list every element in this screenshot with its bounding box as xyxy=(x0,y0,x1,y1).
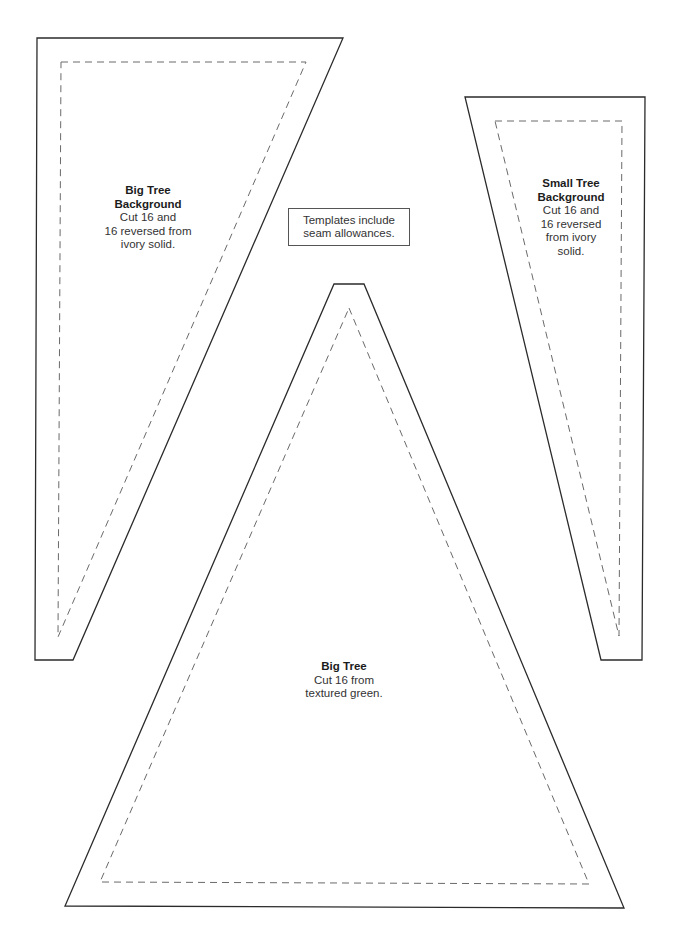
note-line-1: Templates include xyxy=(303,214,395,228)
small-tree-background-title-2: Background xyxy=(526,191,616,205)
small-tree-background-label: Small Tree Background Cut 16 and 16 reve… xyxy=(526,177,616,258)
big-tree-instruction-2: textured green. xyxy=(284,687,404,701)
big-tree-seam-line xyxy=(100,308,589,884)
note-line-2: seam allowances. xyxy=(303,227,395,241)
big-tree-instruction-1: Cut 16 from xyxy=(284,674,404,688)
big-tree-background-cut-line xyxy=(35,38,343,660)
big-tree-background-instruction-1: Cut 16 and xyxy=(88,211,208,225)
small-tree-background-instruction-3: from ivory xyxy=(526,231,616,245)
big-tree-label: Big Tree Cut 16 from textured green. xyxy=(284,660,404,701)
small-tree-background-title-1: Small Tree xyxy=(526,177,616,191)
small-tree-background-instruction-4: solid. xyxy=(526,245,616,259)
small-tree-background-instruction-2: 16 reversed xyxy=(526,218,616,232)
big-tree-background-label: Big Tree Background Cut 16 and 16 revers… xyxy=(88,184,208,252)
big-tree-background-seam-line xyxy=(58,62,306,637)
big-tree-background-title-2: Background xyxy=(88,198,208,212)
seam-allowance-note: Templates include seam allowances. xyxy=(288,208,410,246)
big-tree-template xyxy=(65,284,624,908)
big-tree-cut-line xyxy=(65,284,624,908)
template-shapes xyxy=(0,0,676,936)
big-tree-title: Big Tree xyxy=(284,660,404,674)
big-tree-background-template xyxy=(35,38,343,660)
big-tree-background-instruction-3: ivory solid. xyxy=(88,238,208,252)
big-tree-background-title-1: Big Tree xyxy=(88,184,208,198)
small-tree-background-instruction-1: Cut 16 and xyxy=(526,204,616,218)
big-tree-background-instruction-2: 16 reversed from xyxy=(88,225,208,239)
